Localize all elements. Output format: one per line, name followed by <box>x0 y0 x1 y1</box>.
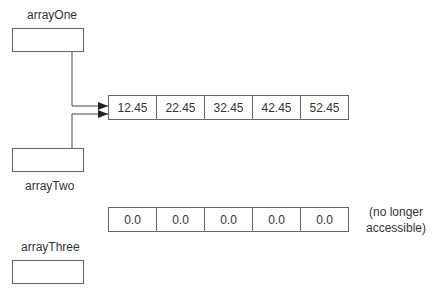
arrayTwo-reference-box <box>12 148 84 172</box>
array-cell: 0.0 <box>205 208 253 231</box>
array-cell: 0.0 <box>253 208 301 231</box>
array-cell: 52.45 <box>301 96 348 119</box>
array-cell: 0.0 <box>109 208 157 231</box>
label-arrayThree: arrayThree <box>21 240 80 254</box>
label-arrayOne: arrayOne <box>27 8 77 22</box>
array-cell: 0.0 <box>301 208 348 231</box>
array-cell: 42.45 <box>253 96 301 119</box>
active-array: 12.45 22.45 32.45 42.45 52.45 <box>108 95 349 120</box>
array-cell: 22.45 <box>157 96 205 119</box>
no-longer-accessible-note: (no longer accessible) <box>366 204 426 236</box>
array-cell: 32.45 <box>205 96 253 119</box>
arrayThree-reference-box <box>12 260 84 284</box>
note-line-2: accessible) <box>366 220 426 236</box>
array-cell: 0.0 <box>157 208 205 231</box>
note-line-1: (no longer <box>366 204 426 220</box>
array-cell: 12.45 <box>109 96 157 119</box>
label-arrayTwo: arrayTwo <box>25 179 74 193</box>
orphaned-array: 0.0 0.0 0.0 0.0 0.0 <box>108 207 349 232</box>
arrayOne-reference-box <box>12 28 84 52</box>
